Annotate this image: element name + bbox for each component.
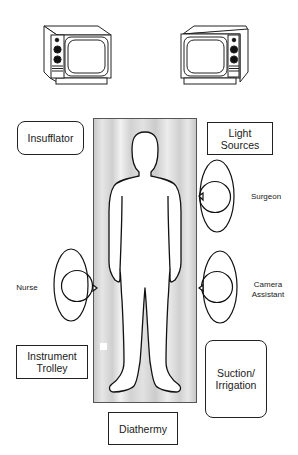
surgeon-label: Surgeon bbox=[246, 192, 286, 202]
instrument-trolley-label-line1: Instrument bbox=[27, 350, 77, 362]
table-marker bbox=[100, 343, 107, 350]
suction-irrigation-box: Suction/ Irrigation bbox=[205, 340, 267, 418]
light-sources-label-line2: Sources bbox=[221, 139, 260, 151]
nurse-figure-icon bbox=[54, 249, 97, 321]
insufflator-label: Insufflator bbox=[28, 132, 74, 144]
suction-label-line2: Irrigation bbox=[216, 379, 257, 391]
insufflator-box: Insufflator bbox=[17, 121, 84, 155]
patient-figure-icon bbox=[109, 132, 181, 392]
nurse-label-text: Nurse bbox=[16, 283, 37, 292]
camera-assistant-label: Camera Assistant bbox=[245, 280, 291, 299]
light-sources-box: Light Sources bbox=[207, 122, 273, 155]
diathermy-label: Diathermy bbox=[119, 423, 167, 435]
camera-assistant-figure-icon bbox=[199, 251, 237, 323]
surgeon-label-text: Surgeon bbox=[251, 192, 281, 201]
diathermy-box: Diathermy bbox=[108, 412, 178, 445]
instrument-trolley-label-line2: Trolley bbox=[36, 362, 67, 374]
camera-assistant-label-line1: Camera bbox=[245, 280, 291, 290]
camera-assistant-label-line2: Assistant bbox=[245, 290, 291, 300]
surgeon-figure-icon bbox=[199, 160, 234, 232]
instrument-trolley-box: Instrument Trolley bbox=[16, 345, 88, 379]
light-sources-label-line1: Light bbox=[229, 127, 252, 139]
suction-label-line1: Suction/ bbox=[217, 367, 255, 379]
nurse-label: Nurse bbox=[12, 283, 42, 293]
